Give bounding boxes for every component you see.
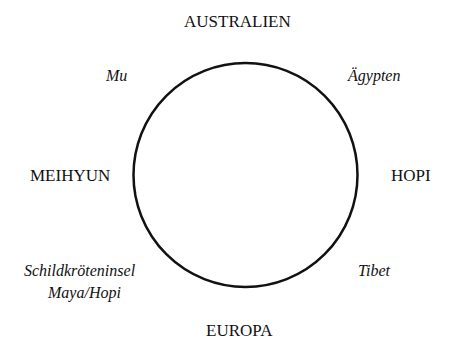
label-right-hopi: HOPI: [391, 166, 431, 186]
label-schildkroeteninsel: Schildkröteninsel: [24, 262, 135, 280]
circle: [134, 63, 358, 287]
label-mu: Mu: [106, 67, 127, 85]
label-tibet: Tibet: [358, 262, 390, 280]
label-top-australien: AUSTRALIEN: [184, 12, 291, 32]
label-bottom-europa: EUROPA: [206, 321, 272, 341]
label-left-meihyun: MEIHYUN: [30, 166, 110, 186]
label-aegypten: Ägypten: [348, 67, 400, 85]
label-maya-hopi: Maya/Hopi: [48, 284, 121, 302]
